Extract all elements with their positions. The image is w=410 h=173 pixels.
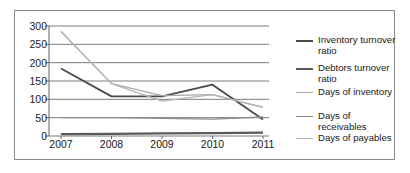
y-tick-label: 0 bbox=[41, 131, 47, 141]
x-tick-label: 2010 bbox=[201, 138, 224, 150]
legend-label: Days of receivables bbox=[318, 111, 396, 132]
x-tick-label: 2011 bbox=[252, 138, 275, 150]
y-axis-tick-labels: 050100150200250300 bbox=[15, 11, 47, 161]
legend-swatch-line-icon bbox=[296, 138, 313, 139]
legend-swatch-line-icon bbox=[296, 68, 313, 70]
chart-figure: 050100150200250300 20072008200920102011 … bbox=[14, 10, 395, 160]
x-axis-tick-labels: 20072008200920102011 bbox=[49, 136, 277, 152]
x-tick-label: 2008 bbox=[100, 138, 123, 150]
legend-swatch-line-icon bbox=[296, 40, 313, 42]
legend-label: Days of payables bbox=[318, 133, 396, 144]
y-tick-label: 150 bbox=[29, 76, 47, 86]
y-tick-label: 250 bbox=[29, 39, 47, 49]
legend-label: Debtors turnover ratio bbox=[318, 63, 396, 84]
y-tick-label: 100 bbox=[29, 94, 47, 104]
x-tick-label: 2007 bbox=[49, 138, 72, 150]
series-line-0 bbox=[61, 69, 263, 120]
legend-swatch-line-icon bbox=[296, 92, 313, 93]
legend-label: Days of inventory bbox=[318, 87, 396, 98]
legend-label: Inventory turnover ratio bbox=[318, 35, 396, 56]
legend-swatch-line-icon bbox=[296, 116, 313, 117]
y-tick-label: 50 bbox=[35, 113, 47, 123]
x-tick-label: 2009 bbox=[150, 138, 173, 150]
series-line-2 bbox=[61, 32, 263, 108]
chart-legend: Inventory turnover ratioDebtors turnover… bbox=[281, 11, 396, 161]
series-line-1 bbox=[61, 133, 263, 134]
axis-tick-marks bbox=[45, 26, 263, 139]
y-tick-label: 300 bbox=[29, 21, 47, 31]
y-tick-label: 200 bbox=[29, 58, 47, 68]
plot-region: 050100150200250300 20072008200920102011 bbox=[15, 11, 277, 161]
data-series-group bbox=[61, 32, 263, 135]
